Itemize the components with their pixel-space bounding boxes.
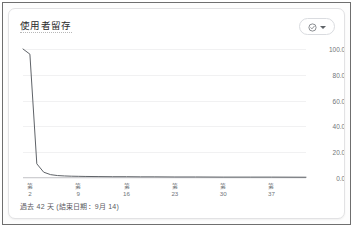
x-axis-tick-prefix: 第 bbox=[123, 183, 130, 190]
chart-y-axis: 100.0%80.0%60.0%40.0%20.0%0.0% bbox=[309, 49, 345, 178]
y-axis-tick-label: 80.0% bbox=[333, 71, 345, 78]
y-axis-tick-label: 100.0% bbox=[329, 46, 345, 53]
x-axis-tick-prefix: 第 bbox=[171, 183, 178, 190]
x-axis-tick-label: 第16 bbox=[123, 183, 130, 198]
x-axis-tick-prefix: 第 bbox=[220, 183, 227, 190]
x-axis-tick-value: 2 bbox=[27, 190, 33, 198]
x-axis-tick-prefix: 第 bbox=[268, 183, 275, 190]
chart-status-dropdown[interactable] bbox=[299, 18, 335, 35]
check-circle-icon bbox=[308, 18, 317, 36]
x-axis-tick-prefix: 第 bbox=[75, 183, 81, 190]
card-header: 使用者留存 bbox=[9, 9, 344, 41]
chevron-down-icon[interactable] bbox=[320, 26, 326, 29]
y-axis-tick-label: 60.0% bbox=[333, 97, 345, 104]
y-axis-tick-label: 40.0% bbox=[333, 123, 345, 130]
x-axis-tick-label: 第2 bbox=[27, 183, 33, 198]
x-axis-tick-value: 37 bbox=[268, 190, 275, 198]
x-axis-tick-value: 23 bbox=[171, 190, 178, 198]
y-axis-tick-label: 0.0% bbox=[336, 175, 345, 182]
chart-gridline bbox=[23, 178, 306, 179]
x-axis-tick-label: 第9 bbox=[75, 183, 81, 198]
x-axis-tick-prefix: 第 bbox=[27, 183, 33, 190]
x-axis-tick-label: 第23 bbox=[171, 183, 178, 198]
y-axis-tick-label: 20.0% bbox=[333, 149, 345, 156]
chart-series-line bbox=[23, 49, 306, 178]
x-axis-tick-label: 第37 bbox=[268, 183, 275, 198]
chart-date-range-caption: 過去 42 天 (結束日期：9月 14) bbox=[20, 201, 119, 211]
chart-plot-wrapper: 100.0%80.0%60.0%40.0%20.0%0.0% 第2第9第16第2… bbox=[9, 41, 344, 218]
x-axis-tick-value: 9 bbox=[75, 190, 81, 198]
retention-chart-card: 使用者留存 100.0%80.0%60.0%40.0%20. bbox=[8, 8, 345, 219]
x-axis-tick-value: 16 bbox=[123, 190, 130, 198]
x-axis-tick-label: 第30 bbox=[220, 183, 227, 198]
page-title: 使用者留存 bbox=[20, 20, 72, 33]
window-frame: 使用者留存 100.0%80.0%60.0%40.0%20. bbox=[2, 2, 351, 225]
chart-plot-area bbox=[23, 49, 306, 178]
x-axis-tick-value: 30 bbox=[220, 190, 227, 198]
